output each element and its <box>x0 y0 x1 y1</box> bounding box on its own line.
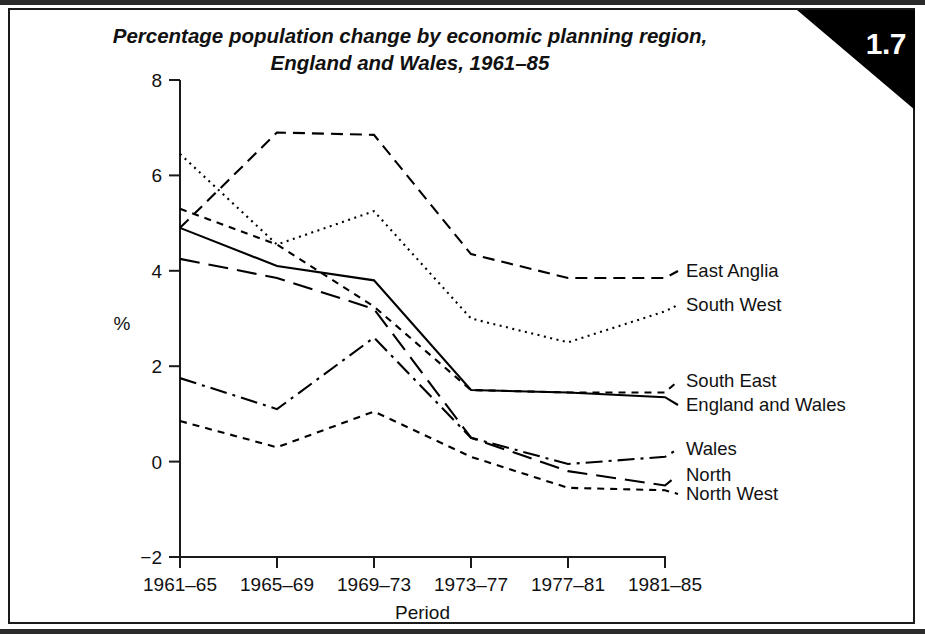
y-tick-label: 8 <box>151 70 162 91</box>
series-line-england-and-wales <box>180 228 678 405</box>
x-tick-label: 1969–73 <box>337 574 411 595</box>
series-line-north-west <box>180 412 678 494</box>
y-tick-label: 2 <box>151 356 162 377</box>
x-tick-label: 1981–85 <box>628 574 702 595</box>
y-tick-label: 0 <box>151 452 162 473</box>
chart-plot-area: −2024681961–651965–691969–731973–771977–… <box>0 0 925 634</box>
x-axis-title: Period <box>395 602 450 623</box>
line-chart-svg: −2024681961–651965–691969–731973–771977–… <box>0 0 925 634</box>
x-tick-label: 1961–65 <box>143 574 217 595</box>
axis-labels: −2024681961–651965–691969–731973–771977–… <box>114 70 702 623</box>
legend-label-england-and-wales: England and Wales <box>686 394 846 415</box>
legend-label-north: North <box>686 464 731 485</box>
series-line-south-west <box>180 154 678 342</box>
series-lines <box>180 132 678 494</box>
y-tick-label: −2 <box>140 547 162 568</box>
legend-label-east-anglia: East Anglia <box>686 260 779 281</box>
series-line-north <box>180 259 678 486</box>
figure-page: Percentage population change by economic… <box>0 0 925 634</box>
legend-label-south-east: South East <box>686 370 777 391</box>
series-line-wales <box>180 338 678 464</box>
legend: East AngliaSouth WestSouth EastEngland a… <box>686 260 846 504</box>
series-line-south-east <box>180 209 678 393</box>
x-tick-label: 1977–81 <box>531 574 605 595</box>
legend-label-north-west: North West <box>686 483 778 504</box>
x-tick-label: 1965–69 <box>240 574 314 595</box>
y-tick-label: 4 <box>151 261 162 282</box>
y-axis-title: % <box>114 313 131 334</box>
axes <box>169 80 666 568</box>
y-tick-label: 6 <box>151 165 162 186</box>
legend-label-south-west: South West <box>686 294 781 315</box>
x-tick-label: 1973–77 <box>434 574 508 595</box>
legend-label-wales: Wales <box>686 438 737 459</box>
